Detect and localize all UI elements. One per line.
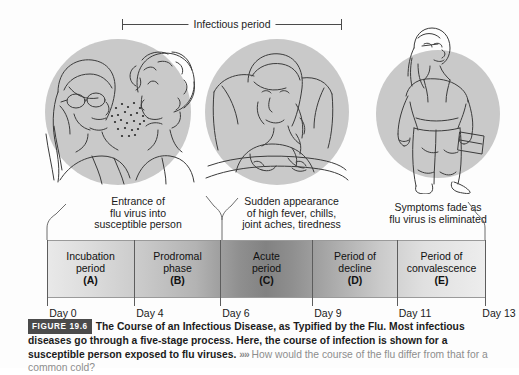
day-tick-13 <box>485 240 486 306</box>
disease-stage-timeline: Incubation period (A) Prodromal phase (B… <box>47 240 485 298</box>
stage-name-acute: Acute period <box>252 251 281 275</box>
day-label-9: Day 9 <box>314 307 341 319</box>
day-label-0: Day 0 <box>49 307 76 319</box>
bracket-tick-left <box>122 19 123 30</box>
stage-cell-prodromal[interactable]: Prodromal phase (B) <box>134 241 220 297</box>
day-tick-4 <box>134 240 135 306</box>
stage-name-convalescence: Period of convalescence <box>407 251 476 275</box>
figure-caption: FIGURE 19.6The Course of an Infectious D… <box>28 319 496 375</box>
caption-exposure: Entrance of flu virus into susceptible p… <box>58 196 218 231</box>
illustration-exposure <box>30 30 205 190</box>
stage-cell-decline[interactable]: Period of decline (D) <box>312 241 397 297</box>
day-label-6: Day 6 <box>222 307 249 319</box>
caption-recovery: Symptoms fade as flu virus is eliminated <box>362 202 514 225</box>
illustration-recovery <box>368 22 513 194</box>
stage-name-prodromal: Prodromal phase <box>153 251 201 275</box>
illustration-acute-illness <box>192 30 362 190</box>
caption-acute-symptoms: Sudden appearance of high fever, chills,… <box>214 196 369 231</box>
day-label-4: Day 4 <box>136 307 163 319</box>
stage-letter-prodromal: (B) <box>170 275 185 287</box>
day-label-13: Day 13 <box>482 307 515 319</box>
stage-cell-incubation[interactable]: Incubation period (A) <box>47 241 134 297</box>
stage-name-decline: Period of decline <box>334 251 376 275</box>
stage-letter-decline: (D) <box>348 275 363 287</box>
stage-letter-convalescence: (E) <box>435 275 449 287</box>
figure-caption-title: The Course of an Infectious Disease, as … <box>96 321 386 332</box>
figure-number-badge: FIGURE 19.6 <box>28 319 92 334</box>
day-tick-9 <box>312 240 313 306</box>
day-label-11: Day 11 <box>399 307 432 319</box>
day-tick-6 <box>220 240 221 306</box>
stage-name-incubation: Incubation period <box>66 251 114 275</box>
bracket-tick-right <box>341 19 342 30</box>
stage-letter-acute: (C) <box>259 275 274 287</box>
day-tick-11 <box>397 240 398 306</box>
stage-cell-convalescence[interactable]: Period of convalescence (E) <box>397 241 485 297</box>
question-arrows-icon: »» <box>239 349 248 360</box>
day-tick-0 <box>47 240 48 306</box>
stage-letter-incubation: (A) <box>83 275 98 287</box>
stage-cell-acute[interactable]: Acute period (C) <box>220 241 312 297</box>
